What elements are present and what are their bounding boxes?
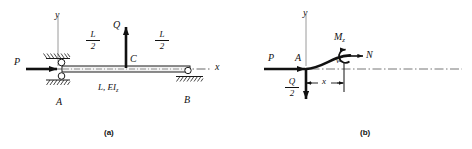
beam-property-subscript: z xyxy=(116,87,118,93)
support-a-upper-hatch xyxy=(44,54,71,59)
internal-moment-subscript: z xyxy=(342,36,345,43)
span-left-numerator: L xyxy=(86,30,100,39)
engineering-figure: y x P Q A C B L, EIz L 2 L 2 (a) y P A M… xyxy=(0,0,472,149)
panel-b-node-a-label: A xyxy=(295,53,301,63)
panel-b-y-axis-label: y xyxy=(303,8,307,18)
deflection-v-label: v xyxy=(336,57,340,65)
node-a-label: A xyxy=(56,97,62,107)
load-q-label: Q xyxy=(113,20,120,30)
node-b-label: B xyxy=(184,95,190,105)
support-a-roller-top xyxy=(58,59,65,66)
support-a-roller-bottom xyxy=(58,73,65,80)
node-c-label: C xyxy=(130,54,137,64)
reaction-q-half-label: Q 2 xyxy=(285,77,299,99)
internal-force-n-label: N xyxy=(366,50,373,60)
panel-a-x-axis-label: x xyxy=(215,62,219,72)
panel-b-caption: (b) xyxy=(360,128,370,137)
panel-a-caption: (a) xyxy=(104,128,114,137)
support-b-hatch xyxy=(177,77,204,82)
beam-property-text: L, EI xyxy=(98,82,116,92)
span-right-numerator: L xyxy=(155,30,169,39)
internal-moment-label: Mz xyxy=(334,32,345,43)
span-left-denominator: 2 xyxy=(86,42,100,51)
figure-svg xyxy=(0,0,472,149)
panel-b-load-p-label: P xyxy=(268,53,274,63)
load-p-label: P xyxy=(14,57,20,67)
panel-a-y-axis-label: y xyxy=(55,10,59,20)
support-a-lower-hatch xyxy=(47,80,71,85)
span-right-denominator: 2 xyxy=(155,42,169,51)
support-b-roller xyxy=(185,67,191,73)
dimension-x-label: x xyxy=(322,77,326,86)
beam-property-label: L, EIz xyxy=(98,83,118,93)
span-left-dimension: L 2 xyxy=(86,30,100,52)
span-right-dimension: L 2 xyxy=(155,30,169,52)
reaction-numerator: Q xyxy=(285,77,299,86)
reaction-denominator: 2 xyxy=(285,89,299,98)
